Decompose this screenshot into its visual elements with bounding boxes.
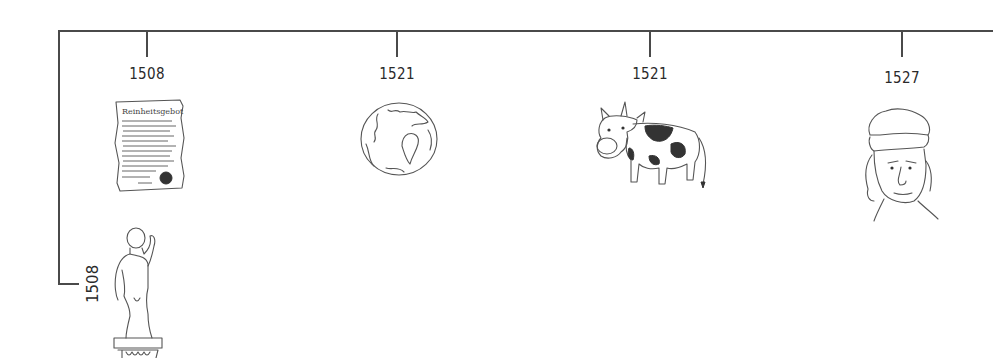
- timeline-tick-1: [146, 31, 148, 57]
- statue-icon: [108, 226, 170, 358]
- timeline-axis-vertical: [58, 30, 60, 285]
- timeline-tick-3: [649, 31, 651, 57]
- event-year-1: 1508: [129, 65, 165, 83]
- event-year-2: 1521: [379, 65, 415, 83]
- timeline-branch-tick: [58, 283, 79, 285]
- timeline-axis-horizontal: [58, 30, 993, 32]
- globe-icon: [358, 100, 440, 178]
- timeline-tick-4: [901, 31, 903, 57]
- event-year-4: 1527: [884, 69, 920, 87]
- branch-event-year: 1508: [84, 265, 102, 303]
- document-icon: Reinheitsgebot: [110, 98, 190, 193]
- timeline-tick-2: [396, 31, 398, 57]
- document-title: Reinheitsgebot: [122, 107, 184, 116]
- event-year-3: 1521: [632, 65, 668, 83]
- portrait-icon: [856, 105, 946, 223]
- cow-icon: [593, 98, 713, 193]
